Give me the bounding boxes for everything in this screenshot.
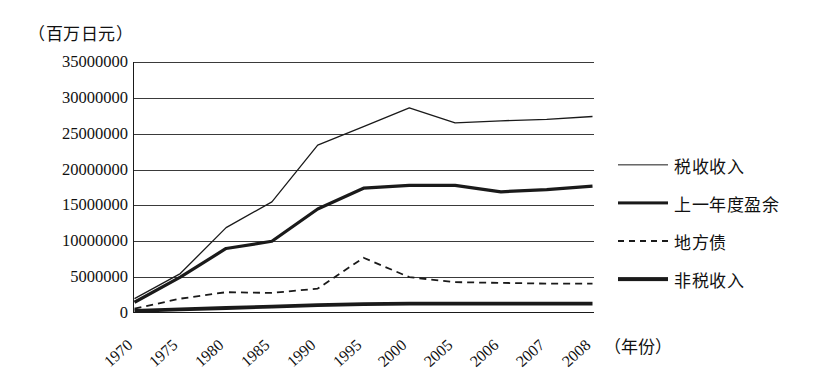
legend-line-swatch	[618, 273, 668, 285]
y-axis-tick-label: 10000000	[8, 233, 128, 249]
legend-item[interactable]: 税收收入	[618, 146, 828, 184]
y-axis-tick-label: 15000000	[8, 197, 128, 213]
x-axis-tick-label: 1990	[283, 336, 319, 371]
legend-item-label: 税收收入	[668, 153, 744, 178]
series-line	[135, 304, 593, 311]
line-chart: （百万日元） 350000003000000025000000200000001…	[0, 0, 835, 385]
legend-item-label: 非税收入	[668, 267, 744, 292]
y-axis-unit-label: （百万日元）	[28, 20, 133, 45]
legend-line-swatch	[618, 159, 668, 171]
series-line	[135, 185, 593, 302]
y-axis-tick-labels: 3500000030000000250000002000000015000000…	[0, 62, 128, 313]
legend-item[interactable]: 非税收入	[618, 260, 828, 298]
x-axis-tick-label: 2000	[375, 336, 411, 371]
x-axis-tick-label: 2007	[512, 336, 548, 371]
series-line	[135, 258, 593, 309]
y-axis-tick-label: 5000000	[8, 269, 128, 285]
x-axis-tick-label: 2005	[421, 336, 457, 371]
x-axis-tick-label: 1970	[100, 336, 136, 371]
x-axis-tick-label: 2006	[466, 336, 502, 371]
chart-legend: 税收收入上一年度盈余地方债非税收入	[618, 146, 828, 298]
y-axis-tick-label: 20000000	[8, 162, 128, 178]
y-axis-tick-label: 0	[8, 305, 128, 321]
x-axis-tick-label: 2008	[558, 336, 594, 371]
y-axis-tick-label: 25000000	[8, 126, 128, 142]
legend-item[interactable]: 地方债	[618, 222, 828, 260]
legend-item[interactable]: 上一年度盈余	[618, 184, 828, 222]
x-axis-tick-label: 1995	[329, 336, 365, 371]
y-axis-tick-label: 30000000	[8, 90, 128, 106]
x-axis-tick-label: 1985	[237, 336, 273, 371]
x-axis-caption: （年份）	[604, 333, 672, 358]
y-axis-tick-label: 35000000	[8, 54, 128, 70]
legend-item-label: 上一年度盈余	[668, 191, 779, 216]
legend-line-swatch	[618, 197, 668, 209]
legend-line-swatch	[618, 235, 668, 247]
series-line	[135, 108, 593, 299]
series-layer	[133, 62, 594, 313]
x-axis-tick-label: 1980	[192, 336, 228, 371]
legend-item-label: 地方债	[668, 229, 727, 254]
x-axis-tick-labels: 1970197519801985199019952000200520062007…	[133, 313, 594, 373]
x-axis-tick-label: 1975	[146, 336, 182, 371]
